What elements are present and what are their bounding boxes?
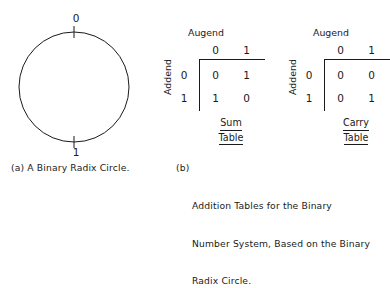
carry-table-top-rule (324, 59, 390, 60)
sum-row-header-1: 1 (176, 87, 192, 110)
carry-col-header-0: 0 (325, 44, 356, 56)
carry-table-name: Carry Table (325, 117, 387, 145)
caption-panel-b: (b) Addition Tables for the Binary Numbe… (176, 162, 370, 288)
carry-table-name-line1: Carry (343, 117, 369, 131)
sum-table-top-rule (199, 59, 265, 60)
carry-row-header-0: 0 (301, 64, 317, 87)
radix-tick-label-1: 1 (66, 147, 86, 158)
sum-cell-1-0: 1 (200, 87, 231, 110)
panel-binary-radix-circle: 0 1 (a) A Binary Radix Circle. (0, 0, 170, 204)
sum-col-header-1: 1 (231, 44, 262, 56)
caption-panel-b-line3: Radix Circle. (192, 275, 370, 288)
carry-cell-1-1: 1 (356, 87, 387, 110)
table-row: 0 1 (325, 87, 387, 110)
caption-panel-a: (a) A Binary Radix Circle. (11, 162, 130, 175)
radix-tick-label-0: 0 (66, 13, 86, 24)
table-row: 0 0 (325, 64, 387, 87)
carry-cell-1-0: 0 (325, 87, 356, 110)
sum-table-body: 0 1 1 0 (200, 64, 262, 110)
table-row: 0 1 (200, 64, 262, 87)
carry-table-column-headers: 0 1 (325, 44, 387, 56)
sum-table-name-line1: Sum (220, 117, 242, 131)
carry-col-header-1: 1 (356, 44, 387, 56)
radix-circle-graphic (18, 22, 134, 148)
table-row: 1 0 (200, 87, 262, 110)
sum-cell-0-1: 1 (231, 64, 262, 87)
carry-cell-0-1: 0 (356, 64, 387, 87)
caption-panel-b-line1: Addition Tables for the Binary (192, 200, 370, 213)
sum-table-row-headers: 0 1 (176, 64, 192, 110)
sum-table-augend-label: Augend (174, 27, 238, 38)
carry-table-augend-label: Augend (299, 27, 363, 38)
carry-table-body: 0 0 0 1 (325, 64, 387, 110)
carry-table-addend-label: Addend (288, 55, 298, 99)
carry-table-row-headers: 0 1 (301, 64, 317, 110)
sum-cell-1-1: 0 (231, 87, 262, 110)
caption-panel-b-tag: (b) (176, 162, 189, 175)
sum-table-column-headers: 0 1 (200, 44, 262, 56)
carry-cell-0-0: 0 (325, 64, 356, 87)
sum-table-addend-label: Addend (163, 55, 173, 99)
carry-table-name-line2: Table (344, 132, 369, 146)
caption-panel-b-line2: Number System, Based on the Binary (192, 238, 370, 251)
carry-row-header-1: 1 (301, 87, 317, 110)
sum-table-name: Sum Table (200, 117, 262, 145)
sum-cell-0-0: 0 (200, 64, 231, 87)
sum-table-name-line2: Table (219, 132, 244, 146)
sum-col-header-0: 0 (200, 44, 231, 56)
sum-row-header-0: 0 (176, 64, 192, 87)
